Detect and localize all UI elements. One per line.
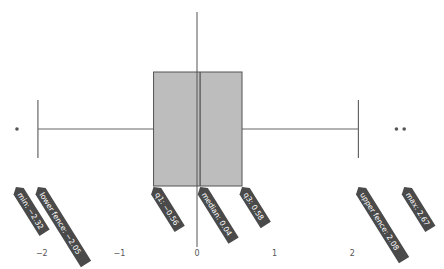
annotation-q3: q3: 0.58 (237, 184, 271, 228)
annotation-labels: min: −2.32lower fence: −2.05q1: −0.56med… (11, 184, 436, 267)
x-tick-label: 0 (194, 249, 199, 258)
x-tick-label: −1 (114, 249, 126, 258)
annotation-text: median: 0.04 (200, 191, 234, 238)
box-plot-chart: min: −2.32lower fence: −2.05q1: −0.56med… (0, 0, 444, 269)
annotation-text: max: 2.67 (404, 191, 432, 228)
annotation-median: median: 0.04 (195, 184, 239, 244)
annotation-max: max: 2.67 (399, 184, 435, 232)
annotation-upper-fence: upper fence: 2.08 (353, 184, 409, 263)
annotation-q1: q1: −0.56 (148, 184, 184, 232)
outlier-point (395, 127, 399, 131)
x-tick-label: −2 (36, 249, 48, 258)
iqr-box (154, 72, 242, 186)
outlier-point (15, 127, 19, 131)
x-tick-label: 1 (272, 249, 277, 258)
annotation-text: q1: −0.56 (153, 191, 181, 228)
x-tick-label: 2 (350, 249, 355, 258)
outlier-point (402, 127, 406, 131)
annotation-text: upper fence: 2.08 (358, 191, 401, 253)
